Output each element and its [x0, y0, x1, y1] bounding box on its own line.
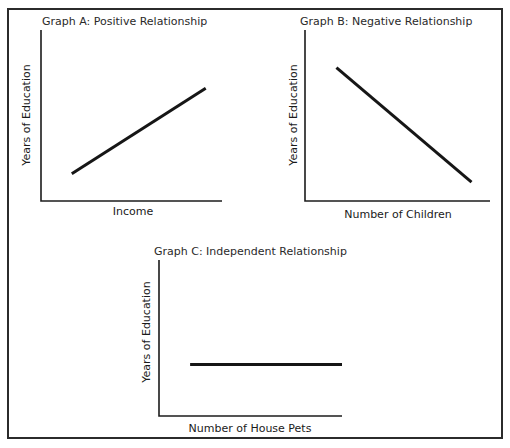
graph-b-x-axis-label: Number of Children [344, 208, 452, 221]
relationship-graphs-figure: Graph A: Positive Relationship Income Ye… [0, 0, 510, 448]
graph-b-relationship-line [336, 68, 471, 183]
graph-c-y-axis-label: Years of Education [140, 281, 153, 383]
graph-c-axes [159, 260, 342, 416]
graph-a: Graph A: Positive Relationship Income Ye… [20, 15, 222, 218]
graph-c: Graph C: Independent Relationship Number… [140, 245, 347, 435]
graph-b-y-axis-label: Years of Education [287, 64, 300, 166]
graph-b: Graph B: Negative Relationship Number of… [287, 15, 490, 221]
graph-a-y-axis-label: Years of Education [20, 64, 33, 166]
graph-a-axes [41, 30, 222, 201]
graph-a-title: Graph A: Positive Relationship [42, 15, 207, 28]
graph-a-relationship-line [72, 88, 206, 174]
graph-c-title: Graph C: Independent Relationship [154, 245, 347, 258]
graph-b-title: Graph B: Negative Relationship [300, 15, 472, 28]
graph-a-x-axis-label: Income [113, 205, 154, 218]
graph-c-x-axis-label: Number of House Pets [189, 422, 312, 435]
